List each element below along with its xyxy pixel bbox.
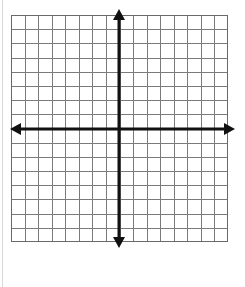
grid-area [11,15,228,242]
coordinate-plane-figure [0,0,245,287]
scan-edge-artifact [2,0,3,287]
grid-lines [11,15,228,242]
